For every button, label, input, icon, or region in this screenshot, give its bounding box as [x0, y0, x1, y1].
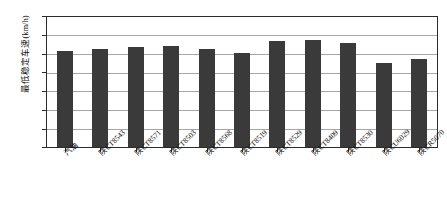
bars-container [47, 17, 437, 147]
bar-3 [163, 46, 179, 147]
bar-4 [199, 49, 215, 147]
x-axis-labels: 汽油陕CT8543陕CT8571陕CT8503陕CT8568陕CT8519陕CT… [0, 148, 447, 204]
bar-slot [366, 17, 401, 147]
bar-8 [340, 43, 356, 147]
bar-7 [305, 40, 321, 147]
bar-slot [224, 17, 259, 147]
bar-slot [47, 17, 82, 147]
bar-slot [82, 17, 117, 147]
bar-6 [269, 41, 285, 147]
bar-slot [402, 17, 437, 147]
bar-slot [118, 17, 153, 147]
y-axis-title: 最低稳定车速(km/h) [18, 0, 30, 124]
bar-0 [57, 51, 73, 147]
bar-slot [153, 17, 188, 147]
bar-10 [411, 59, 427, 147]
bar-slot [295, 17, 330, 147]
bar-2 [128, 47, 144, 147]
bar-9 [376, 63, 392, 147]
bar-chart: 最低稳定车速(km/h) 35 30 25 20 15 10 5 0 汽油陕 [0, 0, 447, 204]
bar-slot [260, 17, 295, 147]
bar-1 [92, 49, 108, 147]
bar-slot [331, 17, 366, 147]
bar-5 [234, 53, 250, 147]
bar-slot [189, 17, 224, 147]
